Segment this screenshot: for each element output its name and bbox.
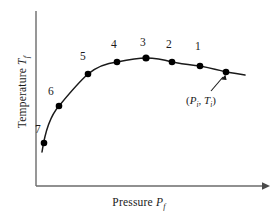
annotation-arrow-line [211,77,223,91]
x-axis-label: Pressure Pf [0,196,278,211]
plot-canvas [0,0,278,217]
point-label-5: 5 [80,51,86,63]
point-label-7: 7 [35,124,41,136]
point-label-2: 2 [166,39,172,51]
point-label-1: 1 [195,41,201,53]
y-axis-label-text: Temperature [16,68,28,128]
data-point-7[interactable] [41,140,48,147]
y-axis-label-subscript: f [22,56,31,58]
point-label-4: 4 [111,39,117,51]
x-axis-label-subscript: f [163,202,165,211]
data-point-6[interactable] [56,103,63,110]
data-point-3[interactable] [142,54,149,61]
point-label-6: 6 [48,86,54,98]
annotation-subscript-t: i [210,100,212,109]
point-label-3: 3 [140,37,146,49]
data-point-4[interactable] [114,59,121,66]
annotation-subscript-p: i [196,100,198,109]
data-point-initial-state[interactable] [223,69,230,76]
y-axis-label-symbol: T [16,58,28,65]
figure-container: 7 6 5 4 3 2 1 (Pi, Ti) Pressure Pf Tempe… [0,0,278,217]
y-axis-label: Temperature Tf [16,12,32,172]
initial-state-annotation: (Pi, Ti) [186,94,216,109]
data-point-1[interactable] [197,63,204,70]
data-point-2[interactable] [169,59,176,66]
x-axis-arrow-icon [262,182,270,190]
x-axis-label-text: Pressure [112,196,153,208]
data-point-5[interactable] [85,71,92,78]
